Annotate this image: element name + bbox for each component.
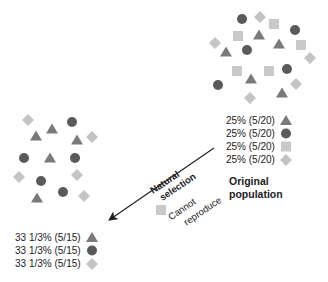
- circle-icon: [86, 245, 98, 256]
- square-icon: [296, 40, 306, 50]
- diamond-icon: [13, 171, 25, 183]
- legend-row-circle: 33 1/3% (5/15): [15, 244, 98, 257]
- original-population-title: Original population: [229, 175, 283, 201]
- circle-icon: [280, 128, 292, 139]
- diamond-icon: [254, 11, 266, 23]
- legend-label: 33 1/3% (5/15): [15, 244, 81, 257]
- diamond-icon: [86, 131, 98, 143]
- diamond-icon: [71, 169, 83, 181]
- legend-row-diamond: 25% (5/20): [226, 153, 292, 166]
- legend-row-triangle: 33 1/3% (5/15): [15, 231, 98, 244]
- triangle-icon: [253, 30, 265, 40]
- diamond-icon: [304, 52, 316, 64]
- triangle-icon: [46, 124, 58, 134]
- square-icon: [233, 31, 243, 41]
- legend-label: 25% (5/20): [226, 127, 275, 140]
- legend-row-diamond: 33 1/3% (5/15): [15, 257, 98, 270]
- triangle-icon: [273, 39, 285, 49]
- circle-icon: [19, 153, 29, 163]
- triangle-icon: [31, 193, 43, 203]
- legend-label: 33 1/3% (5/15): [15, 257, 81, 270]
- original-population-legend: 25% (5/20) 25% (5/20) 25% (5/20) 25% (5/…: [226, 114, 292, 166]
- diamond-icon: [290, 78, 302, 90]
- diamond-icon: [86, 258, 98, 270]
- triangle-icon: [71, 135, 83, 145]
- diamond-icon: [244, 92, 256, 104]
- selected-population-legend: 33 1/3% (5/15) 33 1/3% (5/15) 33 1/3% (5…: [15, 231, 98, 270]
- square-icon: [280, 141, 292, 152]
- legend-label: 25% (5/20): [226, 140, 275, 153]
- triangle-icon: [44, 153, 56, 163]
- diamond-icon: [22, 114, 34, 126]
- circle-icon: [36, 176, 46, 186]
- selected-population-cluster: [13, 114, 98, 203]
- circle-icon: [67, 117, 77, 127]
- circle-icon: [58, 187, 68, 197]
- legend-row-circle: 25% (5/20): [226, 127, 292, 140]
- legend-row-triangle: 25% (5/20): [226, 114, 292, 127]
- triangle-icon: [280, 115, 292, 126]
- circle-icon: [242, 45, 252, 55]
- legend-row-square: 25% (5/20): [226, 140, 292, 153]
- square-icon: [269, 19, 279, 29]
- circle-icon: [290, 25, 300, 35]
- square-icon: [264, 66, 274, 76]
- circle-icon: [70, 153, 80, 163]
- diamond-icon: [209, 37, 221, 49]
- diamond-icon: [280, 154, 292, 166]
- original-population-cluster: [209, 11, 316, 104]
- circle-icon: [237, 14, 247, 24]
- triangle-icon: [245, 74, 257, 84]
- square-icon: [232, 66, 242, 76]
- circle-icon: [213, 80, 223, 90]
- triangle-icon: [86, 232, 98, 243]
- triangle-icon: [30, 131, 42, 141]
- legend-label: 33 1/3% (5/15): [15, 231, 81, 244]
- diamond-icon: [78, 190, 90, 202]
- legend-label: 25% (5/20): [226, 114, 275, 127]
- legend-label: 25% (5/20): [226, 153, 275, 166]
- circle-icon: [282, 64, 292, 74]
- triangle-icon: [276, 88, 288, 98]
- triangle-icon: [220, 47, 232, 57]
